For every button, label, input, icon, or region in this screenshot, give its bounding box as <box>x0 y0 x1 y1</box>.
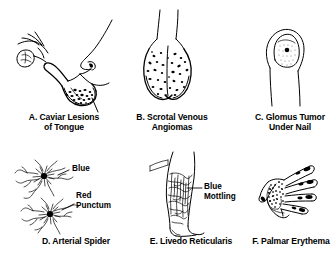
panel-c-caption-line1: C. Glomus Tumor <box>234 112 331 122</box>
annotation-blue: Blue <box>72 164 90 174</box>
panel-c-caption: C. Glomus Tumor Under Nail <box>234 112 331 133</box>
palmar-erythema-drawing <box>254 158 328 238</box>
panel-a-caviar-lesions: A. Caviar Lesions of Tongue <box>8 8 120 113</box>
panel-b-caption-line2: Angiomas <box>113 122 231 132</box>
panel-a-caption-line2: of Tongue <box>0 122 130 132</box>
annotation-blue-text: Blue <box>72 164 90 173</box>
panel-a-caption: A. Caviar Lesions of Tongue <box>0 112 130 133</box>
annotation-blue-mottling: Blue Mottling <box>204 182 236 201</box>
spider-upper <box>15 160 73 198</box>
panel-a-caption-line1: A. Caviar Lesions <box>0 112 130 122</box>
annotation-red-punctum-line1: Red <box>76 191 111 201</box>
panel-e-livedo-reticularis: Blue Mottling E. Livedo Reticularis <box>150 150 252 238</box>
panel-b-caption: B. Scrotal Venous Angiomas <box>113 112 231 133</box>
annotation-red-punctum-line2: Punctum <box>76 201 111 211</box>
annotation-blue-mottling-line2: Mottling <box>204 192 236 202</box>
panel-b-scrotal-venous-angiomas: B. Scrotal Venous Angiomas <box>132 8 212 113</box>
panel-c-caption-line2: Under Nail <box>234 122 331 132</box>
panel-f-palmar-erythema: F. Palmar Erythema <box>254 158 328 238</box>
glomus-tumor-spot <box>285 48 290 53</box>
glomus-tumor-drawing <box>252 8 328 113</box>
panel-b-caption-line1: B. Scrotal Venous <box>113 112 231 122</box>
annotation-red-punctum: Red Punctum <box>76 191 111 210</box>
red-punctum-leader-line <box>62 204 74 210</box>
annotation-blue-mottling-line1: Blue <box>204 182 236 192</box>
panel-f-caption: F. Palmar Erythema <box>239 236 331 246</box>
scrotal-angiomas-drawing <box>132 8 212 113</box>
panel-c-glomus-tumor: C. Glomus Tumor Under Nail <box>252 8 328 113</box>
spider-lower <box>21 198 79 234</box>
clinical-signs-figure: A. Caviar Lesions of Tongue <box>0 0 331 259</box>
panel-d-arterial-spider: Blue Red Punctum D. Arterial Spider <box>14 158 139 238</box>
caviar-lesions-drawing <box>8 8 120 113</box>
panel-f-caption-line1: F. Palmar Erythema <box>239 236 331 246</box>
livedo-reticularis-drawing <box>150 150 252 238</box>
